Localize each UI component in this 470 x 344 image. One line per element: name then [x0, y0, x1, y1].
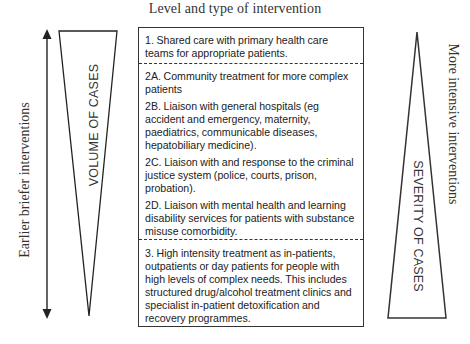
- level-divider: [139, 63, 363, 64]
- level-1-section: 1. Shared care with primary health care …: [139, 34, 363, 64]
- double-arrow-icon: [43, 29, 52, 319]
- level-1-item: 1. Shared care with primary health care …: [145, 34, 359, 60]
- intervention-levels-box: 1. Shared care with primary health care …: [138, 27, 364, 327]
- level-2b-item: 2B. Liaison with general hospitals (eg a…: [145, 100, 359, 152]
- volume-of-cases-label: VOLUME OF CASES: [87, 64, 101, 186]
- level-2-section: 2A. Community treatment for more complex…: [139, 70, 363, 242]
- severity-of-cases-label: SEVERITY OF CASES: [411, 160, 425, 292]
- level-2c-item: 2C. Liaison with and response to the cri…: [145, 156, 359, 195]
- level-3-item: 3. High intensity treatment as in-patien…: [145, 247, 359, 325]
- level-3-section: 3. High intensity treatment as in-patien…: [139, 247, 363, 329]
- earlier-briefer-interventions-label: Earlier briefer interventions: [17, 102, 33, 257]
- level-2d-item: 2D. Liaison with mental health and learn…: [145, 199, 359, 238]
- level-2a-item: 2A. Community treatment for more complex…: [145, 70, 359, 96]
- level-divider: [139, 239, 363, 240]
- intervention-diagram: Level and type of intervention Earlier b…: [0, 0, 470, 344]
- more-intensive-interventions-label: More intensive interventions: [445, 44, 461, 205]
